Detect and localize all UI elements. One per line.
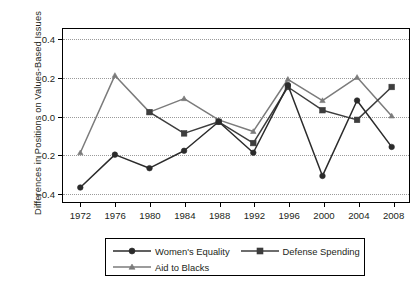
y-tick-label: –0.4 — [36, 189, 55, 200]
data-point-square-marker — [320, 107, 326, 113]
x-tick-label: 2004 — [348, 210, 369, 221]
legend-item-womens-equality: Women's Equality — [112, 245, 230, 257]
legend-symbol-triangle-icon — [112, 261, 152, 273]
y-tick-label: 0.0 — [42, 111, 55, 122]
series-line-circle — [80, 85, 391, 187]
x-tick-label: 1984 — [174, 210, 195, 221]
data-point-triangle-marker — [285, 77, 290, 82]
data-point-circle-marker — [389, 144, 395, 150]
y-tick-label: 0.2 — [42, 72, 55, 83]
data-point-square-marker — [147, 109, 153, 115]
x-tick-label: 2000 — [313, 210, 334, 221]
chart-legend: Women's Equality Defense Spending Aid to… — [105, 238, 365, 276]
legend-item-defense-spending: Defense Spending — [240, 245, 360, 257]
plot-inner: 0.40.20.0–0.2–0.4 1972197619801984198819… — [63, 29, 409, 202]
data-point-triangle-marker — [78, 150, 83, 155]
data-point-square-marker — [181, 131, 187, 137]
data-point-circle-marker — [129, 248, 135, 254]
data-point-square-marker — [389, 84, 395, 90]
data-point-triangle-marker — [354, 75, 359, 80]
data-point-circle-marker — [216, 119, 222, 125]
legend-label-defense-spending: Defense Spending — [283, 246, 360, 257]
data-point-circle-marker — [285, 82, 291, 88]
plot-area: 0.40.20.0–0.2–0.4 1972197619801984198819… — [62, 28, 410, 203]
y-tick-label: –0.2 — [36, 150, 55, 161]
series-line-triangle — [80, 75, 391, 152]
data-point-square-marker — [257, 248, 263, 254]
x-tick-label: 1976 — [105, 210, 126, 221]
data-point-circle-marker — [181, 148, 187, 154]
legend-row-2: Aid to Blacks — [112, 259, 358, 275]
x-tick-label: 1980 — [139, 210, 160, 221]
data-point-circle-marker — [320, 173, 326, 179]
legend-item-aid-to-blacks: Aid to Blacks — [112, 261, 209, 273]
legend-symbol-circle-icon — [112, 245, 152, 257]
chart-figure: Differences in Positions on Values-Based… — [0, 0, 420, 285]
legend-label-womens-equality: Women's Equality — [155, 246, 230, 257]
data-point-square-marker — [354, 117, 360, 123]
data-point-circle-marker — [354, 98, 360, 104]
legend-row-1: Women's Equality Defense Spending — [112, 243, 358, 259]
legend-symbol-square-icon — [240, 245, 280, 257]
data-point-circle-marker — [78, 185, 84, 191]
x-tick-label: 2008 — [383, 210, 404, 221]
y-tick-label: 0.4 — [42, 33, 55, 44]
x-tick-label: 1972 — [70, 210, 91, 221]
x-tick-label: 1996 — [279, 210, 300, 221]
series-layer — [63, 29, 409, 203]
data-point-circle-marker — [250, 150, 256, 156]
data-point-triangle-marker — [181, 96, 186, 101]
data-point-triangle-marker — [112, 73, 117, 78]
data-point-circle-marker — [147, 165, 153, 171]
data-point-circle-marker — [112, 152, 118, 158]
x-tick-label: 1992 — [244, 210, 265, 221]
x-tick-label: 1988 — [209, 210, 230, 221]
data-point-square-marker — [250, 140, 256, 146]
legend-label-aid-to-blacks: Aid to Blacks — [155, 262, 209, 273]
